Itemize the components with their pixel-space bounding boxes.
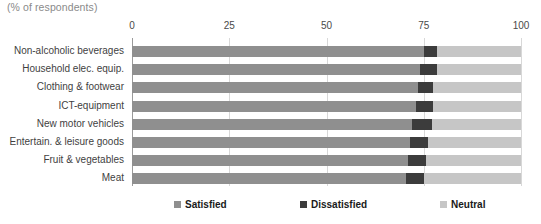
bar-segment-satisfied	[132, 46, 424, 57]
bar-segment-dissatisfied	[418, 82, 434, 93]
bar-row	[132, 173, 521, 184]
chart-legend: SatisfiedDissatisfiedNeutral	[0, 199, 541, 215]
legend-item-neutral[interactable]: Neutral	[440, 199, 485, 210]
legend-item-satisfied[interactable]: Satisfied	[174, 199, 227, 210]
category-label: Fruit & vegetables	[43, 154, 124, 165]
bar-row	[132, 101, 521, 112]
bar-segment-satisfied	[132, 64, 420, 75]
category-label: Entertain. & leisure goods	[9, 136, 124, 147]
bar-segment-satisfied	[132, 82, 418, 93]
category-label: Meat	[102, 172, 124, 183]
category-label: New motor vehicles	[37, 118, 124, 129]
bar-segment-neutral	[428, 137, 521, 148]
x-tick-label-75: 75	[418, 20, 429, 31]
bar-row	[132, 137, 521, 148]
category-axis-labels: Non-alcoholic beveragesHousehold elec. e…	[0, 38, 128, 186]
bar-row	[132, 46, 521, 57]
bar-segment-neutral	[437, 46, 521, 57]
bar-segment-satisfied	[132, 173, 406, 184]
bar-segment-satisfied	[132, 119, 412, 130]
bar-segment-dissatisfied	[412, 119, 431, 130]
bar-segment-neutral	[433, 82, 521, 93]
bar-row	[132, 64, 521, 75]
x-axis-tick-labels: 0255075100	[0, 20, 541, 36]
bar-segment-dissatisfied	[410, 137, 428, 148]
x-tick-label-0: 0	[129, 20, 135, 31]
bar-segment-satisfied	[132, 101, 416, 112]
category-label: Clothing & footwear	[37, 81, 124, 92]
units-caption: (% of respondents)	[7, 1, 98, 13]
legend-swatch-dissatisfied	[300, 201, 307, 208]
legend-item-dissatisfied[interactable]: Dissatisfied	[300, 199, 367, 210]
x-tick-label-100: 100	[513, 20, 530, 31]
legend-swatch-neutral	[440, 201, 447, 208]
category-label: ICT-equipment	[58, 100, 124, 111]
bar-segment-satisfied	[132, 155, 408, 166]
bar-segment-dissatisfied	[420, 64, 438, 75]
stacked-bar-chart: (% of respondents) 0255075100 Non-alcoho…	[0, 0, 541, 224]
bar-segment-neutral	[426, 155, 521, 166]
gridline-100	[521, 38, 522, 186]
legend-label-satisfied: Satisfied	[185, 199, 227, 210]
legend-label-neutral: Neutral	[451, 199, 485, 210]
category-label: Non-alcoholic beverages	[14, 45, 124, 56]
x-tick-label-25: 25	[224, 20, 235, 31]
bar-row	[132, 119, 521, 130]
bar-row	[132, 82, 521, 93]
category-label: Household elec. equip.	[22, 63, 124, 74]
bar-segment-neutral	[432, 119, 521, 130]
bar-segment-dissatisfied	[424, 46, 438, 57]
bar-segment-dissatisfied	[416, 101, 434, 112]
bar-segment-neutral	[424, 173, 521, 184]
bar-segment-satisfied	[132, 137, 410, 148]
bar-segment-neutral	[433, 101, 521, 112]
legend-swatch-satisfied	[174, 201, 181, 208]
plot-area	[132, 38, 521, 186]
bar-row	[132, 155, 521, 166]
bar-segment-neutral	[437, 64, 521, 75]
bar-segment-dissatisfied	[408, 155, 426, 166]
x-tick-label-50: 50	[321, 20, 332, 31]
legend-label-dissatisfied: Dissatisfied	[311, 199, 367, 210]
bar-segment-dissatisfied	[406, 173, 424, 184]
